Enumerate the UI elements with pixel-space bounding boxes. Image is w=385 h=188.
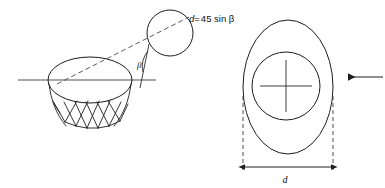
trajectory-dashed-line <box>57 17 189 84</box>
right-front-view-group: d <box>243 20 383 185</box>
net-strand-a4 <box>86 102 98 128</box>
hoop-net-group <box>49 84 131 128</box>
net-knot-4 <box>98 126 109 128</box>
equation-label: d=45 sin β <box>189 13 235 24</box>
basketball-circle <box>147 10 193 56</box>
equation-operator: = <box>194 13 200 24</box>
net-strand-b2 <box>76 101 88 126</box>
net-strand-b1 <box>65 101 77 122</box>
equation-expression: 45 sin β <box>201 13 235 24</box>
dimension-label-d: d <box>283 174 289 185</box>
net-strand-a6 <box>108 101 120 121</box>
figure-root: β d=45 sin β d <box>0 0 385 188</box>
equation-label-group: d=45 sin β <box>189 13 235 24</box>
net-knot-2 <box>76 126 87 128</box>
net-strand-a5 <box>97 102 109 126</box>
left-side-view-group: β <box>18 10 193 128</box>
net-edge-right <box>114 84 131 126</box>
diagram-canvas: β d=45 sin β d <box>0 0 385 188</box>
net-strand-b3 <box>87 101 99 128</box>
center-crosshair-group <box>260 60 312 112</box>
net-strand-b6 <box>120 104 128 121</box>
angle-label-beta: β <box>136 60 142 70</box>
